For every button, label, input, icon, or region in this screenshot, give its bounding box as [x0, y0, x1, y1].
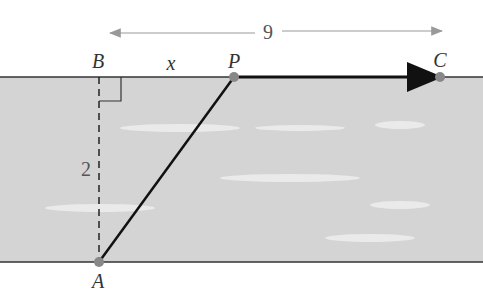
label-P: P	[227, 50, 240, 72]
label-height: 2	[81, 158, 91, 180]
river	[0, 77, 483, 262]
width-label: 9	[263, 21, 273, 43]
point-P	[229, 72, 239, 82]
point-A	[94, 257, 104, 267]
point-C	[435, 72, 445, 82]
label-x: x	[166, 52, 176, 74]
river-diagram: 9 B x P C 2 A	[0, 0, 483, 302]
label-B: B	[92, 50, 104, 72]
label-C: C	[433, 49, 447, 71]
label-A: A	[90, 270, 105, 292]
